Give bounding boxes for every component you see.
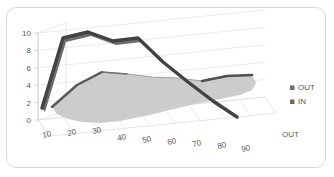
chart-legend: OUT IN xyxy=(290,83,315,106)
y-tick-label: 6 xyxy=(27,64,32,73)
legend-item-out[interactable]: OUT xyxy=(290,83,315,92)
x-tick-label: 90 xyxy=(240,143,251,154)
x-tick-label: 70 xyxy=(191,138,202,149)
chart-y-axis xyxy=(35,33,39,120)
legend-marker-in xyxy=(290,100,295,105)
x-tick-label: 80 xyxy=(216,140,227,151)
depth-axis-title: OUT xyxy=(282,130,299,139)
y-tick-label: 4 xyxy=(27,81,32,90)
y-tick-label: 8 xyxy=(27,46,32,55)
legend-label-out: OUT xyxy=(298,83,315,92)
y-tick-label: 10 xyxy=(22,29,31,38)
x-tick-label: 40 xyxy=(116,132,127,143)
chart-3d-line: 10 8 6 4 2 0 10 20 30 40 50 60 70 80 90 xyxy=(0,0,334,177)
legend-marker-out xyxy=(290,86,295,91)
x-tick-label: 60 xyxy=(166,136,177,147)
x-tick-label: 50 xyxy=(141,134,152,145)
legend-label-in: IN xyxy=(298,97,306,106)
chart-x-tick-labels: 10 20 30 40 50 60 70 80 90 xyxy=(41,125,251,154)
legend-item-in[interactable]: IN xyxy=(290,97,306,106)
y-tick-label: 2 xyxy=(27,99,32,108)
y-tick-label: 0 xyxy=(27,116,32,125)
chart-y-tick-labels: 10 8 6 4 2 0 xyxy=(22,29,31,125)
